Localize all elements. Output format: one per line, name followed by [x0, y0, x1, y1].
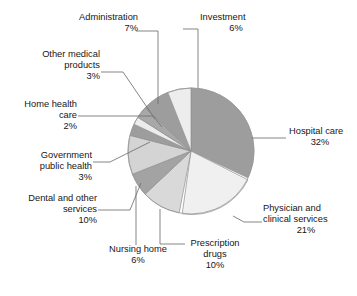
- leader-line-dental-and-other-services: [98, 183, 141, 210]
- label-dental-and-other-services-value: 10%: [0, 215, 97, 226]
- label-hospital-care-value: 32%: [289, 137, 351, 148]
- label-dental-and-other-services-line2: services: [0, 204, 97, 215]
- leader-line-physician-clinical-services: [233, 216, 262, 222]
- label-administration: Administration 7%: [20, 12, 138, 34]
- label-physician-clinical-services-line1: Physician and: [263, 203, 357, 214]
- label-dental-and-other-services-line1: Dental and other: [0, 193, 97, 204]
- label-other-medical-products-line2: products: [0, 60, 100, 71]
- label-government-public-health-value: 3%: [0, 172, 92, 183]
- label-nursing-home: Nursing home 6%: [96, 244, 180, 266]
- label-home-health-care-line2: care: [0, 110, 77, 121]
- label-prescription-drugs-line2: drugs: [182, 249, 248, 260]
- label-government-public-health-line1: Government: [0, 150, 92, 161]
- label-hospital-care: Hospital care 32%: [289, 126, 357, 148]
- label-investment: Investment 6%: [200, 12, 310, 34]
- label-administration-value: 7%: [20, 23, 138, 34]
- label-prescription-drugs-value: 10%: [182, 260, 248, 271]
- label-prescription-drugs: Prescription drugs 10%: [182, 238, 248, 272]
- pie-chart-figure: Administration 7% Investment 6% Other me…: [0, 0, 357, 296]
- label-dental-and-other-services: Dental and other services 10%: [0, 193, 97, 227]
- label-other-medical-products-line1: Other medical: [0, 49, 100, 60]
- label-government-public-health: Government public health 3%: [0, 150, 92, 184]
- label-home-health-care-value: 2%: [0, 121, 77, 132]
- leader-line-administration: [136, 31, 158, 104]
- label-home-health-care: Home health care 2%: [0, 99, 77, 133]
- label-nursing-home-text: Nursing home: [96, 244, 180, 255]
- label-other-medical-products-value: 3%: [0, 71, 100, 82]
- label-investment-value: 6%: [200, 23, 272, 34]
- label-hospital-care-text: Hospital care: [289, 126, 357, 137]
- label-government-public-health-line2: public health: [0, 161, 92, 172]
- label-nursing-home-value: 6%: [96, 255, 180, 266]
- label-investment-text: Investment: [200, 12, 310, 23]
- label-prescription-drugs-line1: Prescription: [182, 238, 248, 249]
- label-other-medical-products: Other medical products 3%: [0, 49, 100, 83]
- label-physician-clinical-services: Physician and clinical services 21%: [263, 203, 357, 237]
- label-administration-text: Administration: [20, 12, 138, 23]
- label-physician-clinical-services-line2: clinical services: [263, 214, 357, 225]
- leader-line-investment: [183, 29, 198, 88]
- label-home-health-care-line1: Home health: [0, 99, 77, 110]
- label-physician-clinical-services-value: 21%: [263, 225, 349, 236]
